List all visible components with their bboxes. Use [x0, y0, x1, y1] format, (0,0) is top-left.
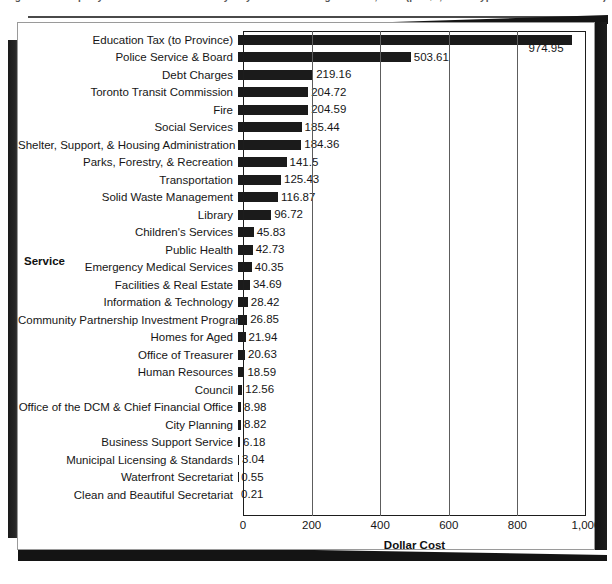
category-label: Education Tax (to Province)	[18, 34, 238, 46]
bar-value-label: 3.04	[242, 453, 264, 466]
category-label: Toronto Transit Commission	[18, 86, 238, 98]
category-label: Clean and Beautiful Secretariat	[18, 489, 238, 501]
bar-cell: 185.44	[238, 119, 581, 137]
bar-cell: 974.95	[238, 31, 581, 49]
bar	[238, 420, 241, 430]
bar-cell: 0.55	[238, 469, 581, 487]
chart-row: Toronto Transit Commission204.72	[18, 84, 581, 102]
bar-value-label: 141.5	[290, 156, 319, 169]
category-label: Shelter, Support, & Housing Administrati…	[18, 139, 238, 151]
x-tick-label: 800	[508, 519, 527, 531]
category-label: Human Resources	[18, 366, 238, 378]
chart-row: Waterfront Secretariat0.55	[18, 469, 581, 487]
bar-value-label: 40.35	[255, 261, 284, 274]
chart-row: Emergency Medical Services40.35	[18, 259, 581, 277]
bar-value-label: 503.61	[414, 51, 449, 64]
bar	[238, 210, 271, 220]
bar	[238, 280, 250, 290]
bar	[238, 385, 242, 395]
bar-value-label: 42.73	[256, 243, 285, 256]
bar-value-label: 96.72	[274, 208, 303, 221]
chart-row: Community Partnership Investment Program…	[18, 311, 581, 329]
category-label: Police Service & Board	[18, 51, 238, 63]
chart-row: Municipal Licensing & Standards3.04	[18, 451, 581, 469]
chart-row: Shelter, Support, & Housing Administrati…	[18, 136, 581, 154]
y-axis-title: Service	[24, 255, 65, 267]
bar-value-label: 116.87	[281, 191, 315, 204]
category-label: Parks, Forestry, & Recreation	[18, 156, 238, 168]
x-tick-label: 1,000	[572, 519, 601, 531]
x-axis-tick-labels: 02004006008001,000	[18, 519, 594, 535]
bar	[238, 122, 302, 132]
chart-row: Office of the DCM & Chief Financial Offi…	[18, 399, 581, 417]
bar-cell: 28.42	[238, 294, 581, 312]
chart-row: Office of Treasurer20.63	[18, 346, 581, 364]
bar-cell: 503.61	[238, 49, 581, 67]
bar	[238, 297, 248, 307]
bar-cell: 8.82	[238, 416, 581, 434]
bar-cell: 6.18	[238, 434, 581, 452]
x-tick-label: 600	[439, 519, 458, 531]
category-label: Children's Services	[18, 226, 238, 238]
gridline	[449, 31, 450, 516]
chart-rows: Education Tax (to Province)974.95Police …	[18, 31, 581, 504]
bar-cell: 184.36	[238, 136, 581, 154]
bar-cell: 141.5	[238, 154, 581, 172]
bar-value-label: 45.83	[257, 226, 286, 239]
bar	[238, 70, 313, 80]
bar	[238, 455, 239, 465]
x-tick-label: 200	[302, 519, 321, 531]
bar-cell: 26.85	[238, 311, 581, 329]
bar-value-label: 6.18	[243, 436, 265, 449]
category-label: Office of the DCM & Chief Financial Offi…	[18, 401, 238, 413]
bar-cell: 12.56	[238, 381, 581, 399]
x-axis-title: Dollar Cost	[243, 539, 586, 551]
chart-row: Information & Technology28.42	[18, 294, 581, 312]
bar-cell: 20.63	[238, 346, 581, 364]
bar	[238, 227, 254, 237]
chart-row: Debt Charges219.16	[18, 66, 581, 84]
bar-cell: 42.73	[238, 241, 581, 259]
category-label: Social Services	[18, 121, 238, 133]
chart-row: Solid Waste Management116.87	[18, 189, 581, 207]
bar-cell: 3.04	[238, 451, 581, 469]
category-label: Homes for Aged	[18, 331, 238, 343]
chart-row: Fire204.59	[18, 101, 581, 119]
category-label: Transportation	[18, 174, 238, 186]
chart-row: Transportation125.43	[18, 171, 581, 189]
category-label: Office of Treasurer	[18, 349, 238, 361]
bar-cell: 219.16	[238, 66, 581, 84]
bar	[238, 105, 308, 115]
bar-value-label: 8.98	[244, 401, 266, 414]
bar-value-label: 125.43	[284, 173, 319, 186]
bar-value-label: 34.69	[253, 278, 282, 291]
bar	[238, 35, 572, 45]
bar	[238, 245, 253, 255]
bar-value-label: 26.85	[250, 313, 279, 326]
chart-row: Business Support Service6.18	[18, 434, 581, 452]
bar-cell: 40.35	[238, 259, 581, 277]
bar	[238, 367, 244, 377]
chart-row: Facilities & Real Estate34.69	[18, 276, 581, 294]
bar-value-label: 184.36	[304, 138, 339, 151]
bar-value-label: 18.59	[247, 366, 276, 379]
figure-page: Education Tax (to Province)974.95Police …	[17, 22, 595, 550]
bar-cell: 34.69	[238, 276, 581, 294]
chart-row: Council12.56	[18, 381, 581, 399]
bar-cell: 125.43	[238, 171, 581, 189]
bar	[238, 402, 241, 412]
chart-row: Public Health42.73	[18, 241, 581, 259]
bar-value-label: 8.82	[244, 418, 266, 431]
category-label: Community Partnership Investment Program	[18, 314, 238, 326]
category-label: Solid Waste Management	[18, 191, 238, 203]
category-label: Library	[18, 209, 238, 221]
bar-cell: 116.87	[238, 189, 581, 207]
bar	[238, 350, 245, 360]
chart-row: Clean and Beautiful Secretariat0.21	[18, 486, 581, 504]
bar-value-label: 219.16	[316, 68, 351, 81]
category-label: Waterfront Secretariat	[18, 471, 238, 483]
page-top-rule	[28, 16, 606, 18]
chart-row: Human Resources18.59	[18, 364, 581, 382]
category-label: Council	[18, 384, 238, 396]
chart-row: Social Services185.44	[18, 119, 581, 137]
